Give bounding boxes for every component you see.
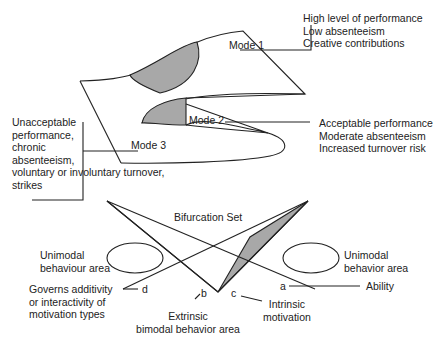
- mode2-label: Mode 2: [189, 114, 224, 127]
- axis-d-letter: d: [142, 283, 148, 296]
- axis-d-label: Governs additivity or interactivity of m…: [29, 283, 112, 321]
- bifurcation-set-title: Bifurcation Set: [174, 211, 242, 224]
- shaded-region-mode1: [130, 42, 199, 93]
- mode2-description: Acceptable performance Moderate absentee…: [319, 117, 433, 155]
- mode3-description: Unacceptable performance, chronic absent…: [12, 116, 164, 191]
- axis-b-letter: b: [201, 287, 207, 300]
- mode1-label: Mode 1: [229, 39, 264, 52]
- unimodal-left-ellipse: [107, 243, 163, 273]
- unimodal-left-label: Unimodal behaviour area: [40, 249, 110, 274]
- mode1-description: High level of performance Low absenteeis…: [303, 12, 423, 50]
- axis-c-letter: c: [231, 287, 236, 300]
- cusp-catastrophe-diagram: Mode 1 Mode 2 Mode 3 High level of perfo…: [0, 0, 441, 343]
- axis-a-label: Ability: [366, 280, 394, 293]
- unimodal-right-ellipse: [283, 243, 339, 273]
- axis-b-label: Extrinsic bimodal behavior area: [133, 310, 243, 335]
- axis-c-label: Intrinsic motivation: [263, 298, 311, 323]
- unimodal-right-label: Unimodal behavior area: [344, 249, 408, 274]
- axis-a-letter: a: [280, 280, 286, 293]
